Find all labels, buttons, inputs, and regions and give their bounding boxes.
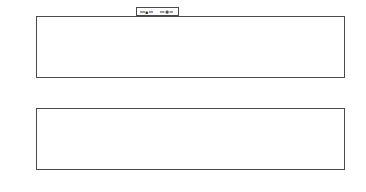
star-marker-icon: ✱ <box>160 9 173 15</box>
bottom-chart-panel <box>0 98 366 192</box>
top-chart-axes <box>36 16 345 78</box>
legend-entry-actual[interactable]: ✱ <box>160 9 175 15</box>
top-chart-legend[interactable]: ■ ✱ <box>136 7 179 16</box>
legend-entry-target[interactable]: ■ <box>140 9 155 15</box>
matlab-figure: ■ ✱ <box>0 0 366 192</box>
square-marker-icon: ■ <box>140 9 153 15</box>
top-chart-plot-area <box>37 17 344 77</box>
top-chart-panel: ■ ✱ <box>0 0 366 98</box>
bottom-chart-axes <box>36 108 345 170</box>
bottom-chart-plot-area <box>37 109 344 169</box>
